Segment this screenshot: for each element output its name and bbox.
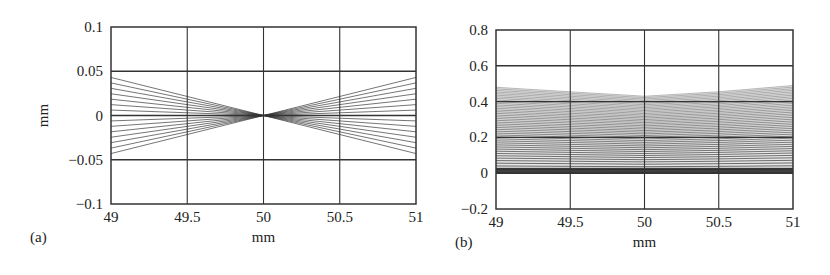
x-tick-label: 49 — [489, 214, 504, 230]
x-tick-label: 51 — [786, 214, 801, 230]
y-tick-label: 0.2 — [469, 129, 488, 145]
x-tick-label: 49.5 — [557, 214, 583, 230]
panel-b-label: (b) — [455, 234, 473, 251]
x-tick-label: 49 — [104, 209, 119, 225]
panel-a-x-tick-labels: 4949.55050.551 — [104, 209, 424, 225]
y-tick-label: 0.6 — [469, 58, 488, 74]
x-tick-label: 50.5 — [706, 214, 732, 230]
panel-b-y-tick-labels: 0.80.60.40.20−0.2 — [461, 22, 489, 217]
figure: 4949.55050.551 0.10.050−0.05−0.1 mm mm (… — [0, 0, 830, 275]
y-tick-label: 0.8 — [469, 22, 488, 38]
y-tick-label: 0 — [96, 108, 104, 124]
x-tick-label: 51 — [409, 209, 424, 225]
y-tick-label: 0.4 — [469, 94, 488, 110]
x-tick-label: 50 — [256, 209, 271, 225]
x-tick-label: 50.5 — [327, 209, 353, 225]
y-tick-label: 0.05 — [77, 63, 103, 79]
panel-b-x-tick-labels: 4949.55050.551 — [489, 214, 801, 230]
panel-b-x-axis-label: mm — [633, 234, 657, 250]
panel-b-plot: 4949.55050.551 0.80.60.40.20−0.2 mm (b) — [455, 22, 801, 251]
x-tick-label: 49.5 — [174, 209, 200, 225]
y-tick-label: 0 — [481, 165, 489, 181]
panel-a-y-axis-label: mm — [35, 104, 51, 128]
panel-a-plot: 4949.55050.551 0.10.050−0.05−0.1 mm mm (… — [30, 19, 424, 246]
panel-a-x-axis-label: mm — [252, 229, 276, 245]
x-tick-label: 50 — [637, 214, 652, 230]
y-tick-label: −0.1 — [76, 196, 103, 212]
panel-a-grid — [111, 27, 416, 204]
panel-a-label: (a) — [30, 229, 47, 246]
panel-a-y-tick-labels: 0.10.050−0.05−0.1 — [68, 19, 103, 212]
y-tick-label: −0.2 — [461, 201, 488, 217]
y-tick-label: 0.1 — [84, 19, 103, 35]
y-tick-label: −0.05 — [68, 152, 103, 168]
